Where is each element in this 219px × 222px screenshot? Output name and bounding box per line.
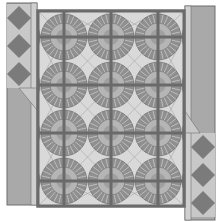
- fan-block: [0, 206, 40, 222]
- sashing-horizontal: [37, 132, 185, 135]
- sashing-vertical: [63, 10, 66, 207]
- right-border-strip: [185, 6, 215, 220]
- fan-block: [135, 206, 181, 222]
- sashing-vertical: [110, 10, 113, 207]
- fan-block: [88, 206, 134, 222]
- fan-block: [41, 206, 87, 222]
- left-border-strip: [7, 3, 37, 205]
- sashing-horizontal: [37, 84, 185, 87]
- quilt-image: [0, 0, 219, 222]
- sashing-vertical: [157, 10, 160, 207]
- sashing-horizontal: [37, 36, 185, 39]
- sashing-horizontal: [37, 180, 185, 183]
